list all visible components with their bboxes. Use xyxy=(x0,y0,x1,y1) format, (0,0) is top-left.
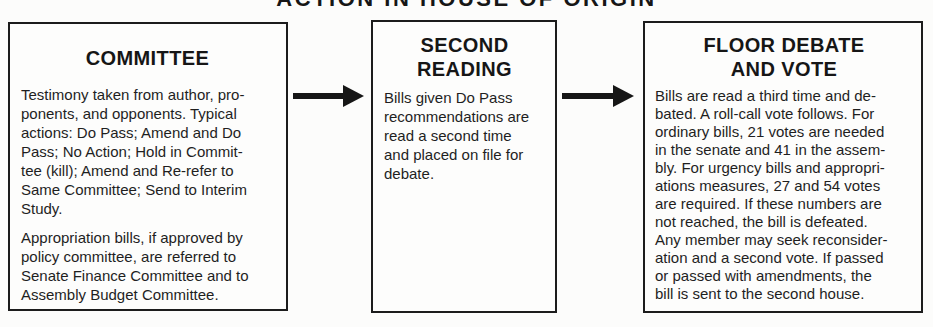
second-reading-paragraph: Bills given Do Pass recommendations are … xyxy=(384,88,545,183)
diagram-title: ACTION IN HOUSE OF ORIGIN xyxy=(20,0,913,9)
arrow-head xyxy=(343,85,364,107)
diagram-title-clipped-region: ACTION IN HOUSE OF ORIGIN xyxy=(20,0,913,9)
process-box-committee: COMMITTEE Testimony taken from author, p… xyxy=(8,22,288,311)
process-box-second-reading: SECOND READING Bills given Do Pass recom… xyxy=(371,20,557,313)
process-box-floor-debate-and-vote: FLOOR DEBATE AND VOTE Bills are read a t… xyxy=(643,21,923,313)
right-arrow-icon xyxy=(293,85,364,107)
committee-heading: COMMITTEE xyxy=(21,46,274,70)
arrow-shaft xyxy=(293,93,343,99)
floor-debate-paragraph: Bills are read a third time and de- bate… xyxy=(655,87,913,303)
second-reading-heading: SECOND READING xyxy=(384,33,545,81)
committee-paragraph-1: Testimony taken from author, pro- ponent… xyxy=(21,85,274,218)
arrow-shaft xyxy=(562,93,613,99)
arrow-head xyxy=(613,85,634,107)
legislative-flowchart: ACTION IN HOUSE OF ORIGIN COMMITTEE Test… xyxy=(0,0,933,327)
committee-paragraph-2: Appropriation bills, if approved by poli… xyxy=(21,228,274,304)
right-arrow-icon xyxy=(562,85,634,107)
floor-debate-heading: FLOOR DEBATE AND VOTE xyxy=(655,33,913,81)
